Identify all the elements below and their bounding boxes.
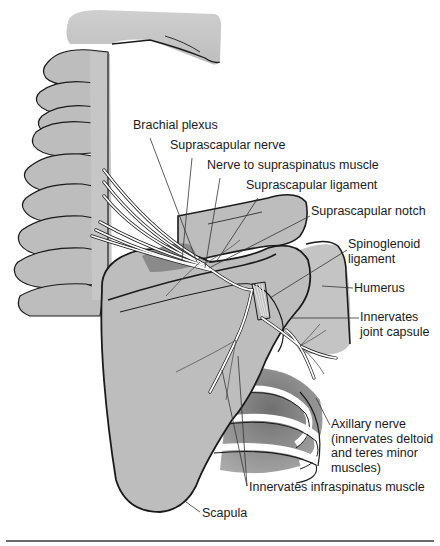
label-suprascapular-notch: Suprascapular notch: [311, 204, 426, 219]
label-scapula: Scapula: [202, 506, 247, 521]
label-nerve-to-supraspinatus: Nerve to supraspinatus muscle: [207, 158, 379, 173]
label-humerus: Humerus: [354, 281, 405, 296]
label-suprascapular-nerve: Suprascapular nerve: [170, 138, 285, 153]
label-axillary-nerve: Axillary nerve (innervates deltoid and t…: [331, 417, 433, 475]
bottom-divider: [6, 540, 434, 542]
label-brachial-plexus: Brachial plexus: [133, 118, 218, 133]
label-innervates-infraspinatus: Innervates infraspinatus muscle: [249, 480, 425, 495]
label-suprascapular-ligament: Suprascapular ligament: [246, 178, 377, 193]
label-innervates-joint-capsule: Innervates joint capsule: [360, 310, 430, 339]
cervical-spine: [14, 50, 112, 316]
label-spinoglenoid-ligament: Spinoglenoid ligament: [348, 237, 420, 266]
